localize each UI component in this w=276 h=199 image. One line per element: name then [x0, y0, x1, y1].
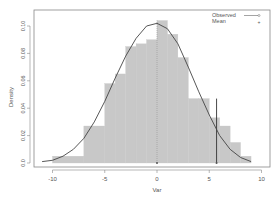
y-axis-label: Density	[8, 87, 14, 107]
histogram-bar	[136, 44, 146, 163]
histogram-bar	[53, 156, 84, 163]
y-tick-label: 0.08	[20, 48, 26, 59]
legend-circle-icon	[258, 15, 260, 17]
histogram-bar	[178, 58, 188, 163]
histogram-bar	[188, 99, 198, 163]
legend-plus-icon: +	[258, 19, 261, 25]
y-tick-label: 0.04	[20, 103, 26, 114]
legend: Observed Mean +	[212, 12, 261, 25]
histogram-bar	[115, 74, 125, 163]
y-tick-label: 0.0	[20, 159, 26, 167]
histogram-bar	[199, 99, 209, 163]
histogram-bar	[84, 126, 105, 163]
x-tick-label: 10	[258, 176, 265, 182]
x-tick-label: -10	[48, 176, 57, 182]
histogram-bars	[53, 21, 252, 163]
density-histogram-chart: -10-50510 0.00.020.040.060.080.10 Var De…	[0, 0, 276, 199]
marker-point	[156, 162, 158, 164]
histogram-bar	[147, 40, 157, 163]
histogram-bar	[220, 126, 230, 163]
x-tick-label: 0	[155, 176, 159, 182]
histogram-bar	[167, 34, 177, 163]
legend-label-mean: Mean	[212, 18, 226, 24]
histogram-bar	[157, 21, 167, 163]
x-tick-label: 5	[208, 176, 212, 182]
y-tick-label: 0.10	[20, 21, 26, 32]
x-axis-label: Var	[153, 187, 162, 193]
y-tick-label: 0.02	[20, 130, 26, 141]
histogram-bar	[105, 84, 115, 163]
x-tick-label: -5	[102, 176, 108, 182]
histogram-bar	[126, 47, 136, 163]
y-tick-label: 0.06	[20, 75, 26, 86]
x-axis: -10-50510	[48, 170, 265, 182]
y-axis: 0.00.020.040.060.080.10	[20, 21, 30, 167]
histogram-bar	[230, 142, 240, 163]
marker-point	[216, 162, 218, 164]
